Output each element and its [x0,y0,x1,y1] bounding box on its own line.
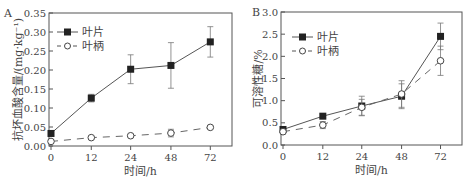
marker-filled-square [88,95,95,102]
marker-open-circle [168,130,175,137]
panel-label: B [252,6,260,19]
x-tick-label: 48 [395,151,408,162]
legend-marker-square [299,34,306,41]
y-tick-label: 2.5 [262,29,278,40]
legend-marker-circle [300,48,306,54]
marker-open-circle [398,91,405,98]
legend-label: 叶片 [82,26,104,39]
y-axis-label: 可溶性糖/% [251,49,265,107]
legend-marker-circle [65,43,71,49]
marker-filled-square [437,33,444,40]
marker-filled-square [167,62,174,69]
marker-open-circle [207,124,214,131]
marker-open-circle [437,57,444,64]
y-tick-label: 0.00 [24,141,46,152]
marker-open-circle [280,128,287,135]
marker-open-circle [358,104,365,111]
y-tick-label: 0.20 [24,65,46,76]
y-tick-label: 0.25 [24,46,46,57]
legend-label: 叶片 [317,31,339,44]
x-tick-label: 0 [280,151,286,162]
y-tick-label: 0.05 [24,122,46,133]
chart-figure: A0.000.050.100.150.200.250.300.350122448… [0,0,468,178]
y-tick-label: 0.10 [24,103,46,114]
y-tick-label: 0.35 [24,8,46,19]
legend-marker-square [64,29,71,36]
x-axis-label: 时间/h [124,165,157,178]
chart-panel-b: B0.00.51.01.52.02.53.0012244872时间/h可溶性糖/… [251,6,462,177]
plot-frame [281,12,462,145]
x-tick-label: 24 [124,152,137,163]
marker-open-circle [48,138,55,145]
marker-open-circle [127,132,134,139]
y-tick-label: 0.5 [262,117,278,128]
plot-frame [49,13,232,146]
y-tick-label: 0.30 [24,27,46,38]
chart-panel-a: A0.000.050.100.150.200.250.300.350122448… [3,7,232,178]
marker-open-circle [320,122,327,129]
y-axis-label: 抗坏血酸含量/(mg·kg⁻¹) [11,18,25,141]
marker-open-circle [88,134,95,141]
legend-label: 叶柄 [82,40,104,53]
x-tick-label: 0 [48,152,54,163]
legend-label: 叶柄 [317,45,339,58]
x-tick-label: 24 [355,151,368,162]
x-tick-label: 12 [85,152,98,163]
marker-filled-square [127,66,134,73]
y-tick-label: 0.0 [262,140,278,151]
x-tick-label: 72 [434,151,447,162]
marker-filled-square [48,130,55,137]
x-axis-label: 时间/h [355,164,388,177]
x-tick-label: 48 [165,152,178,163]
marker-filled-square [207,38,214,45]
x-tick-label: 72 [204,152,217,163]
marker-filled-square [319,113,326,120]
y-tick-label: 3.0 [262,7,278,18]
x-tick-label: 12 [316,151,329,162]
y-tick-label: 0.15 [24,84,46,95]
